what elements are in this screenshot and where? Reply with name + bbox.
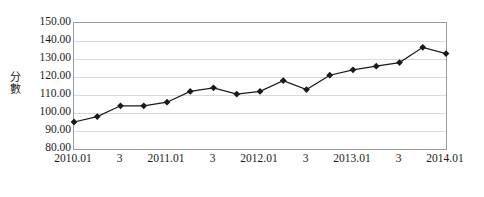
x-axis-tick-label: 3 — [117, 152, 123, 165]
y-axis-tick-label: 130.00 — [22, 52, 71, 64]
data-point-marker — [350, 66, 357, 73]
line-chart: 分 數 80.0090.00100.00110.00120.00130.0014… — [0, 0, 484, 197]
data-point-marker — [187, 88, 194, 95]
y-axis-tick-label: 150.00 — [22, 16, 71, 28]
x-axis-tick-label: 2010.01 — [54, 152, 91, 165]
x-axis-tick-label: 3 — [303, 152, 309, 165]
x-axis-tick-label: 3 — [210, 152, 216, 165]
data-point-marker — [94, 113, 101, 120]
x-axis-tick-labels: 2010.0132011.0132012.0132013.0132014.01 — [0, 152, 484, 172]
data-point-marker — [280, 77, 287, 84]
data-point-marker — [373, 63, 380, 70]
y-axis-tick-label: 120.00 — [22, 70, 71, 82]
data-point-marker — [419, 44, 426, 51]
data-point-marker — [164, 99, 171, 106]
series-line — [74, 47, 446, 122]
data-point-marker — [140, 102, 147, 109]
data-point-marker — [443, 50, 450, 57]
data-point-marker — [396, 59, 403, 66]
plot-area — [73, 22, 447, 150]
y-axis-tick-label: 140.00 — [22, 34, 71, 46]
y-axis-tick-label: 90.00 — [22, 124, 71, 136]
y-axis-tick-label: 110.00 — [22, 88, 71, 100]
x-axis-tick-label: 2013.01 — [333, 152, 370, 165]
data-point-marker — [210, 84, 217, 91]
y-axis-tick-label: 100.00 — [22, 106, 71, 118]
data-point-marker — [257, 88, 264, 95]
data-point-marker — [326, 72, 333, 79]
data-series — [74, 23, 446, 149]
x-axis-tick-label: 2011.01 — [148, 152, 185, 165]
data-point-marker — [71, 119, 78, 126]
x-axis-tick-label: 2014.01 — [426, 152, 463, 165]
data-point-marker — [117, 102, 124, 109]
x-axis-tick-label: 3 — [396, 152, 402, 165]
data-point-marker — [303, 86, 310, 93]
data-point-marker — [233, 91, 240, 98]
x-axis-tick-label: 2012.01 — [240, 152, 277, 165]
